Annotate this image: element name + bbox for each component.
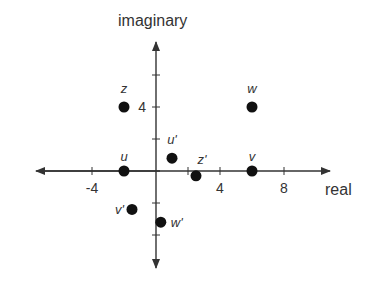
point-label: u [120, 149, 127, 164]
data-points: zwuvu'z'v'w' [115, 81, 258, 230]
point-label: w' [171, 215, 183, 230]
point-label: v' [115, 202, 125, 217]
point-label: z' [197, 152, 208, 167]
point-z-prime [191, 170, 202, 181]
point-u-prime [167, 153, 178, 164]
y-tick-label: 4 [138, 99, 146, 115]
complex-plane-diagram: zwuvu'z'v'w' imaginary real -4484 [0, 0, 370, 283]
point-v [247, 166, 258, 177]
y-axis-label: imaginary [118, 12, 187, 29]
x-axis-label: real [325, 181, 352, 198]
x-tick-label: -4 [86, 180, 99, 196]
point-u [119, 166, 130, 177]
point-w [247, 102, 258, 113]
point-w-prime [155, 217, 166, 228]
point-v-prime [127, 204, 138, 215]
point-label: w [247, 81, 258, 96]
point-label: z [120, 81, 128, 96]
x-tick-label: 4 [216, 180, 224, 196]
point-label: v [249, 149, 257, 164]
point-z [119, 102, 130, 113]
x-tick-label: 8 [280, 180, 288, 196]
point-label: u' [167, 132, 177, 147]
